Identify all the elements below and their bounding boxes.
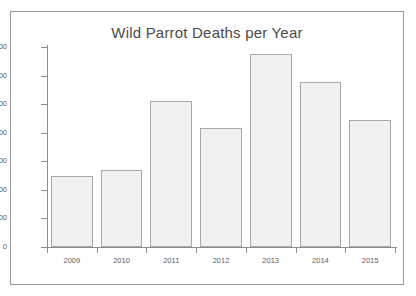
bar [349,120,391,247]
x-axis-tick [395,247,396,253]
chart-title: Wild Parrot Deaths per Year [11,24,403,41]
x-axis-tick-label: 2010 [97,256,147,265]
x-axis-tick [47,247,48,253]
bar [300,82,342,247]
y-axis-tick-label: 500 [0,99,7,108]
y-axis-tick-label: 600 [0,71,7,80]
bar [150,101,192,247]
chart-frame: Wild Parrot Deaths per Year 010020030040… [10,11,404,285]
x-axis-tick [97,247,98,253]
x-axis-tick-label: 2013 [246,256,296,265]
x-axis-tick [296,247,297,253]
y-axis-tick-label: 400 [0,128,7,137]
y-axis-tick-label: 100 [0,213,7,222]
x-axis-line [41,247,397,248]
bar [51,176,93,247]
x-axis-tick-label: 2011 [146,256,196,265]
x-axis-tick [345,247,346,253]
y-axis-tick-label: 300 [0,156,7,165]
x-axis-tick [246,247,247,253]
bar [101,170,143,247]
bar [200,128,242,247]
x-axis-tick-label: 2014 [296,256,346,265]
x-axis-tick [146,247,147,253]
x-axis-tick-label: 2009 [47,256,97,265]
y-axis-tick-label: 0 [3,242,7,251]
bar [250,54,292,247]
y-axis-tick-label: 200 [0,185,7,194]
x-axis-tick-label: 2015 [345,256,395,265]
x-axis-tick [196,247,197,253]
y-axis-tick-label: 700 [0,42,7,51]
x-axis-tick-label: 2012 [196,256,246,265]
plot-area [47,47,395,247]
